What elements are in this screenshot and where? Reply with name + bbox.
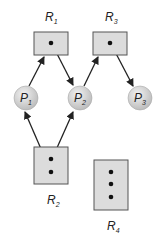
instance-dot [49,170,54,175]
edge-p1-r1 [29,57,44,86]
resource-r1: R1 [34,10,68,55]
resource-r4-label: R4 [107,219,120,234]
instance-dot [49,41,54,46]
resource-allocation-graph: R1 R3 R2 R4 P1 P2 P3 [0,0,160,243]
process-p1: P1 [14,86,38,110]
instance-dot [49,157,54,162]
instance-dot [108,41,113,46]
resource-r3: R3 [93,10,127,55]
resource-r1-label: R1 [45,10,58,25]
resource-r2-label: R2 [47,193,60,208]
instance-dot [109,195,114,200]
resource-r3-label: R3 [105,10,118,25]
instance-dot [109,182,114,187]
instance-dot [109,170,114,175]
process-p2: P2 [68,86,92,110]
process-p3: P3 [128,86,152,110]
resource-r4: R4 [94,160,128,234]
resource-r2: R2 [34,147,68,208]
edge-p2-r3 [84,57,98,86]
